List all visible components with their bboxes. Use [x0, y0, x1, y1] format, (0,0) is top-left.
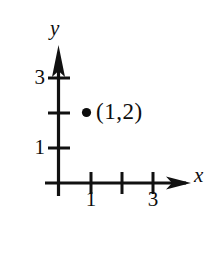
data-point-1-2	[82, 108, 91, 117]
x-tick-label-1: 1	[82, 189, 100, 210]
y-tick-label-1: 1	[27, 137, 45, 158]
x-axis-label: x	[194, 165, 203, 186]
y-tick-label-3: 3	[27, 67, 45, 88]
x-tick-label-3: 3	[144, 189, 162, 210]
axes-drawing	[0, 0, 212, 261]
data-point-annotation: (1,2)	[96, 100, 143, 123]
y-axis-label: y	[50, 18, 59, 39]
coordinate-plane-figure: y x 3 1 1 3 (1,2)	[0, 0, 212, 261]
